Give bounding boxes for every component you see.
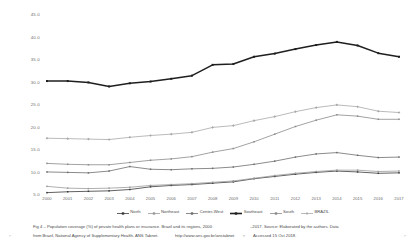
data-point-marker: [87, 81, 89, 83]
page-mark-mid-icon: ≡: [243, 232, 245, 241]
data-point-marker: [67, 187, 69, 189]
data-point-marker: [398, 156, 400, 158]
data-point-marker: [274, 53, 276, 55]
legend-swatch-icon: [301, 202, 313, 220]
data-point-marker: [294, 110, 297, 113]
y-axis: 45.040.035.030.025.020.015.010.05.0: [0, 14, 42, 194]
y-axis-tick-label: 45.0: [31, 12, 40, 17]
x-axis-tick-label: 2010: [249, 196, 258, 201]
data-point-marker: [46, 171, 48, 173]
line-chart-svg: [44, 14, 402, 194]
data-point-marker: [88, 164, 90, 166]
data-point-marker: [336, 169, 338, 171]
x-axis-tick-label: 2004: [125, 196, 134, 201]
y-axis-tick-label: 15.0: [31, 147, 40, 152]
data-point-marker: [46, 163, 48, 165]
data-point-marker: [232, 124, 235, 127]
chart-legend: NorthNortheastCenter-WestSoutheastSouthB…: [44, 206, 402, 216]
data-point-marker: [46, 137, 49, 140]
y-axis-tick-label: 25.0: [31, 102, 40, 107]
x-axis-tick-label: 2006: [167, 196, 176, 201]
data-point-marker: [378, 173, 380, 175]
legend-label: Center-West: [200, 209, 223, 214]
data-point-marker: [108, 170, 110, 172]
caption-line-1: Fig 4 – Population coverage (%) of priva…: [33, 223, 212, 232]
page-mark-left-icon: ⌐: [9, 232, 11, 241]
data-point-marker: [274, 133, 276, 135]
data-point-marker: [357, 115, 359, 117]
legend-swatch-icon: [186, 202, 198, 220]
data-point-marker: [170, 169, 172, 171]
data-point-marker: [67, 191, 69, 193]
data-point-marker: [315, 44, 317, 46]
data-point-marker: [129, 189, 131, 191]
data-point-marker: [377, 52, 379, 54]
data-point-marker: [212, 168, 214, 170]
series-northeast: [46, 169, 400, 189]
series-line: [47, 105, 399, 140]
data-point-marker: [357, 171, 359, 173]
x-axis-tick-label: 2002: [84, 196, 93, 201]
data-point-marker: [191, 156, 193, 158]
legend-label: BRAZIL: [314, 209, 329, 214]
data-point-marker: [88, 172, 90, 174]
data-point-marker: [87, 138, 90, 141]
legend-label: South: [283, 209, 294, 214]
x-axis-tick-label: 2017: [394, 196, 403, 201]
data-point-marker: [150, 160, 152, 162]
chart-plot-area: [44, 14, 402, 194]
legend-item-north[interactable]: North: [117, 202, 141, 220]
data-point-marker: [378, 119, 380, 121]
legend-label: North: [130, 209, 140, 214]
data-point-marker: [274, 160, 276, 162]
data-point-marker: [336, 41, 338, 43]
legend-swatch-icon: [230, 202, 242, 220]
data-point-marker: [191, 131, 194, 134]
legend-item-south[interactable]: South: [270, 202, 294, 220]
caption-accessed-date: Accessed 15 Oct 2018.: [253, 232, 296, 241]
data-point-marker: [170, 158, 172, 160]
data-point-marker: [295, 173, 297, 175]
data-point-marker: [398, 170, 400, 172]
legend-label: Northeast: [161, 209, 179, 214]
data-point-marker: [129, 166, 131, 168]
data-point-marker: [233, 166, 235, 168]
series-southeast: [46, 41, 400, 88]
caption-source-url[interactable]: http://www.ans.gov.br/anstabnet: [175, 232, 234, 241]
series-line: [47, 170, 399, 188]
data-point-marker: [315, 106, 318, 109]
data-point-marker: [315, 119, 317, 121]
data-point-marker: [253, 119, 256, 122]
x-axis-tick-label: 2008: [208, 196, 217, 201]
page-mark-right-icon: ⌐: [404, 232, 406, 241]
data-point-marker: [108, 85, 110, 87]
legend-item-southeast[interactable]: Southeast: [230, 202, 262, 220]
data-point-marker: [253, 178, 255, 180]
y-axis-tick-label: 5.0: [33, 192, 40, 197]
x-axis-tick-label: 2012: [291, 196, 300, 201]
data-point-marker: [294, 48, 296, 50]
data-point-marker: [273, 115, 276, 118]
legend-item-center-west[interactable]: Center-West: [186, 202, 223, 220]
data-point-marker: [66, 137, 69, 140]
data-point-marker: [357, 45, 359, 47]
data-point-marker: [150, 185, 152, 187]
data-point-marker: [233, 148, 235, 150]
x-axis-tick-label: 2016: [374, 196, 383, 201]
data-point-marker: [129, 162, 131, 164]
data-point-marker: [150, 186, 152, 188]
caption-line-2: from Brazil, National Agency of Suppleme…: [33, 232, 158, 241]
data-point-marker: [46, 80, 48, 82]
data-point-marker: [67, 172, 69, 174]
data-point-marker: [67, 164, 69, 166]
data-point-marker: [150, 169, 152, 171]
data-point-marker: [191, 168, 193, 170]
data-point-marker: [274, 175, 276, 177]
data-point-marker: [315, 153, 317, 155]
legend-item-brazil[interactable]: BRAZIL: [301, 202, 329, 220]
data-point-marker: [170, 78, 172, 80]
data-point-marker: [253, 141, 255, 143]
legend-item-northeast[interactable]: Northeast: [148, 202, 180, 220]
series-line: [47, 42, 399, 87]
series-brazil: [46, 104, 401, 141]
